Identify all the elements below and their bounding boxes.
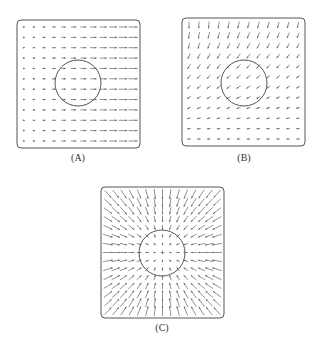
vector-field-c xyxy=(0,0,322,337)
caption-c: (C) xyxy=(142,322,182,333)
